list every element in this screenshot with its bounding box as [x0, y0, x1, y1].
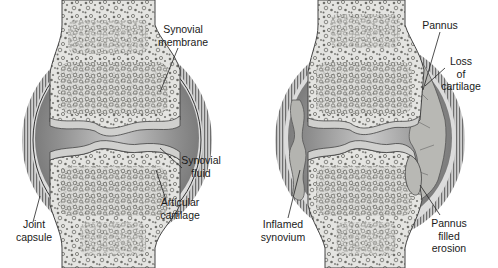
label-articular-cartilage: Articular cartilage [154, 196, 206, 221]
label-line: Loss [438, 55, 484, 68]
label-line: Pannus [420, 19, 460, 32]
label-line: Articular [154, 196, 206, 209]
label-line: capsule [14, 231, 54, 244]
joint-diagram [0, 0, 498, 268]
label-pannus-filled-erosion: Pannus filled erosion [428, 217, 470, 255]
label-line: Synovial [155, 23, 211, 36]
label-inflamed-synovium: Inflamed synovium [258, 218, 308, 243]
label-line: erosion [428, 242, 470, 255]
label-line: Pannus [428, 217, 470, 230]
label-line: of [438, 68, 484, 81]
label-line: cartilage [154, 209, 206, 222]
label-line: membrane [155, 36, 211, 49]
label-line: cartilage [438, 80, 484, 93]
label-joint-capsule: Joint capsule [14, 218, 54, 243]
label-line: fluid [178, 167, 224, 180]
label-synovial-membrane: Synovial membrane [155, 23, 211, 48]
label-line: Synovial [178, 154, 224, 167]
label-pannus: Pannus [420, 19, 460, 32]
label-line: Inflamed [258, 218, 308, 231]
label-line: synovium [258, 231, 308, 244]
label-loss-of-cartilage: Loss of cartilage [438, 55, 484, 93]
label-line: Joint [14, 218, 54, 231]
label-synovial-fluid: Synovial fluid [178, 154, 224, 179]
label-line: filled [428, 230, 470, 243]
